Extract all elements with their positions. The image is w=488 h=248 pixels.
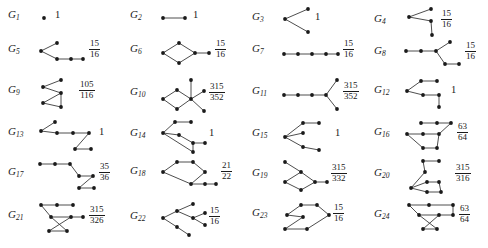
graph-svg [156,155,220,193]
graph-node [89,147,93,151]
fraction-denominator: 16 [89,50,100,60]
graph-label-index: 2 [138,13,142,22]
graph-label-letter: G [8,8,16,20]
graph-node [55,131,59,135]
graph-node [202,109,206,113]
graph-node [435,227,439,231]
graph-node [282,52,286,56]
graph-svg [156,116,208,156]
graph-node [285,213,289,217]
fraction-denominator: 16 [215,50,226,60]
graph-node [301,145,305,149]
graph-label-g13: G13 [8,126,34,138]
graph-entry-g12: G121 [374,74,456,106]
graph-node [41,85,45,89]
graph-node [324,52,328,56]
graph-svg [400,74,450,112]
graph-node [69,215,73,219]
graph-node [310,93,314,97]
fraction-denominator: 326 [89,216,105,226]
graph-label-g20: G20 [374,167,400,179]
graph-label-index: 10 [138,90,146,99]
graph-node [283,180,287,184]
graph-drawing-g1 [34,2,48,28]
graph-entry-g14: G141 [130,116,214,150]
graph-node [203,182,207,186]
graph-edge [41,43,57,51]
fraction-numerator: 63 [459,204,470,215]
fraction-numerator: 315 [89,205,105,216]
graph-edge [285,217,303,229]
graph-drawing-g11 [278,74,336,108]
graph-node [191,150,195,154]
graph-edge [177,204,193,211]
graph-label-g4: G4 [374,13,400,25]
graph-entry-g3: G31 [252,2,320,32]
graph-svg [400,36,464,72]
fraction-denominator: 36 [99,173,110,183]
graph-label-index: 20 [382,171,390,180]
graph-edge [409,17,431,21]
graph-drawing-g13 [34,116,92,148]
graph-node [425,180,429,184]
graph-label-g18: G18 [130,165,156,177]
graph-edge [163,53,179,63]
graph-node [191,202,195,206]
graph-node [407,203,411,207]
graph-drawing-g5 [34,36,82,62]
graph-label-index: 19 [260,171,268,180]
graph-label-index: 21 [16,213,24,222]
graph-svg [34,198,88,238]
graph-node [282,93,286,97]
graph-svg [34,36,88,68]
graph-edge [439,123,451,134]
graph-node [161,97,165,101]
graph-svg [34,155,98,195]
graph-drawing-g12 [400,74,444,106]
graph-label-letter: G [130,126,138,138]
graph-label-index: 22 [138,214,146,223]
graph-node [214,182,218,186]
graph-node [203,170,207,174]
graph-label-letter: G [8,83,16,95]
graph-edge [285,172,301,182]
graph-value-g20: 315316 [455,163,471,183]
graph-label-g8: G8 [374,45,400,57]
fraction-denominator: 64 [459,215,470,225]
graph-node [77,186,81,190]
graph-label-index: 13 [16,130,24,139]
graph-value-g21: 315326 [89,205,105,225]
graph-node [283,160,287,164]
graph-label-letter: G [374,12,382,24]
graph-node [161,131,165,135]
graph-entry-g17: G173536 [8,155,110,189]
graph-node [189,97,193,101]
graph-node [317,148,321,152]
graph-node [71,131,75,135]
graph-node [49,215,53,219]
graph-edge [285,182,301,190]
fraction-denominator: 316 [455,174,471,184]
fraction-numerator: 15 [209,206,220,217]
graph-node [183,16,187,20]
graph-label-index: 15 [260,131,268,140]
fraction-numerator: 315 [331,163,347,174]
graph-value-g14: 1 [209,128,214,139]
graph-edge [437,134,439,148]
graph-label-g1: G1 [8,9,34,21]
graph-label-index: 8 [382,49,386,58]
graph-node [315,203,319,207]
graph-value-g19: 315332 [331,163,347,183]
graph-edge [301,172,315,182]
graph-edge [431,21,432,35]
graph-node [81,57,85,61]
graph-svg [34,74,78,112]
graph-entry-g22: G221516 [130,198,220,234]
graph-node [335,107,339,111]
graph-node [336,52,340,56]
graph-label-letter: G [374,166,382,178]
fraction-denominator: 64 [457,133,468,143]
graph-label-g5: G5 [8,43,34,55]
graph-value-g10: 315352 [209,82,225,102]
fraction-numerator: 315 [455,163,471,174]
